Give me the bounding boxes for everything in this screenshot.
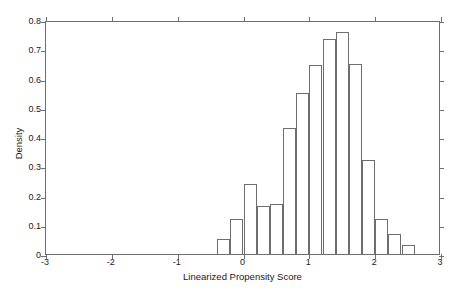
x-axis-tick-top: [375, 17, 376, 22]
histogram-bar: [388, 234, 401, 254]
x-axis-tick-label: 2: [372, 257, 377, 268]
y-axis-tick-label: 0.8: [28, 17, 41, 26]
x-axis-tick-top: [244, 17, 245, 22]
histogram-bar: [296, 93, 309, 254]
x-axis-tick-label: 1: [306, 257, 311, 268]
histogram-bar: [362, 160, 375, 254]
x-axis-tick-label: 3: [437, 257, 442, 268]
histogram-bar: [336, 32, 349, 254]
x-axis-tick-top: [178, 17, 179, 22]
histogram-figure: 00.10.20.30.40.50.60.70.8 -3-2-10123 Lin…: [0, 0, 459, 293]
y-axis-tick-label: 0.7: [28, 46, 41, 55]
x-axis-tick-top: [441, 17, 442, 22]
x-axis-tick-top: [309, 17, 310, 22]
y-axis-tick: [41, 110, 46, 111]
plot-area: [45, 21, 440, 255]
histogram-bars: [46, 22, 439, 254]
x-axis-tick-labels: -3-2-10123: [45, 257, 440, 271]
y-axis-tick-label: 0.1: [28, 221, 41, 230]
y-axis-tick-right: [439, 198, 444, 199]
y-axis-tick: [41, 81, 46, 82]
histogram-bar: [323, 39, 336, 254]
histogram-bar: [402, 245, 415, 254]
histogram-bar: [283, 128, 296, 254]
y-axis-tick-right: [439, 51, 444, 52]
y-axis-tick-right: [439, 81, 444, 82]
y-axis-tick: [41, 22, 46, 23]
histogram-bar: [349, 64, 362, 254]
x-axis-tick-label: -1: [173, 257, 181, 268]
histogram-bar: [309, 65, 322, 254]
y-axis-tick-label: 0.5: [28, 104, 41, 113]
y-axis-tick-right: [439, 168, 444, 169]
histogram-bar: [257, 206, 270, 254]
x-axis-tick-label: -2: [107, 257, 115, 268]
x-axis-tick-top: [46, 17, 47, 22]
y-axis-tick: [41, 168, 46, 169]
y-axis-title: Density: [13, 104, 24, 184]
y-axis-tick: [41, 198, 46, 199]
y-axis-tick: [41, 51, 46, 52]
histogram-bar: [230, 219, 243, 254]
y-axis-tick-right: [439, 22, 444, 23]
y-axis-tick-label: 0.2: [28, 192, 41, 201]
histogram-bar: [270, 204, 283, 254]
x-axis-tick-top: [112, 17, 113, 22]
x-axis-title: Linearized Propensity Score: [45, 271, 440, 282]
y-axis-tick-right: [439, 227, 444, 228]
y-axis-tick-label: 0.3: [28, 163, 41, 172]
x-axis-tick-label: 0: [240, 257, 245, 268]
histogram-bar: [217, 239, 230, 254]
y-axis-tick: [41, 139, 46, 140]
histogram-bar: [244, 184, 257, 254]
y-axis-tick-label: 0.6: [28, 75, 41, 84]
y-axis-tick-right: [439, 139, 444, 140]
y-axis-tick: [41, 227, 46, 228]
histogram-bar: [375, 219, 388, 254]
y-axis-tick-label: 0.4: [28, 134, 41, 143]
x-axis-tick-label: -3: [41, 257, 49, 268]
y-axis-tick-right: [439, 110, 444, 111]
